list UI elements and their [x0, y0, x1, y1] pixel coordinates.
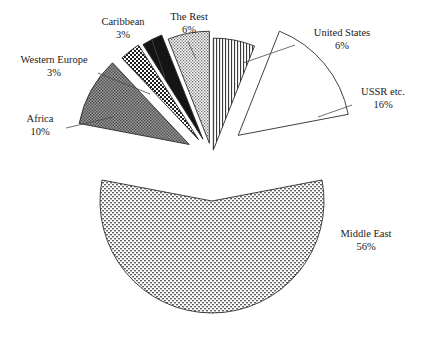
slice-label-western-europe-name: Western Europe [6, 54, 102, 67]
slice-label-africa: Africa 10% [14, 113, 66, 138]
slice-label-africa-percent: 10% [14, 126, 66, 139]
slice-label-caribbean-name: Caribbean [90, 16, 156, 29]
slice-label-the-rest: The Rest 6% [161, 11, 217, 36]
slice-label-middle-east-percent: 56% [322, 241, 410, 254]
slice-label-ussr-percent: 16% [352, 99, 414, 112]
slice-label-middle-east-name: Middle East [322, 228, 410, 241]
slice-label-ussr: USSR etc. 16% [352, 86, 414, 111]
slice-label-middle-east: Middle East 56% [322, 228, 410, 253]
pie-slice-middle-east [100, 180, 324, 313]
slice-label-caribbean-percent: 3% [90, 29, 156, 42]
pie-slices [79, 31, 348, 313]
slice-label-ussr-name: USSR etc. [352, 86, 414, 99]
slice-label-united-states: United States 6% [300, 27, 384, 52]
pie-chart: Western Europe 3% Caribbean 3% The Rest … [0, 0, 422, 345]
slice-label-the-rest-percent: 6% [161, 24, 217, 37]
slice-label-united-states-name: United States [300, 27, 384, 40]
slice-label-western-europe-percent: 3% [6, 67, 102, 80]
slice-label-the-rest-name: The Rest [161, 11, 217, 24]
slice-label-united-states-percent: 6% [300, 40, 384, 53]
slice-label-caribbean: Caribbean 3% [90, 16, 156, 41]
slice-label-western-europe: Western Europe 3% [6, 54, 102, 79]
slice-label-africa-name: Africa [14, 113, 66, 126]
